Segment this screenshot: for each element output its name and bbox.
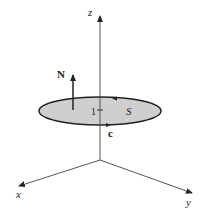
z-axis-label: z: [87, 6, 93, 18]
diagram-canvas: z x y N S c 1: [0, 0, 218, 216]
height-tick-label: 1: [91, 106, 96, 117]
surface-label: S: [126, 105, 132, 117]
normal-vector-label: N: [57, 68, 65, 80]
x-axis-label: x: [15, 188, 21, 200]
boundary-curve-label: c: [108, 127, 113, 139]
y-axis: [100, 160, 192, 193]
y-axis-label: y: [185, 196, 191, 208]
x-axis: [19, 160, 100, 186]
